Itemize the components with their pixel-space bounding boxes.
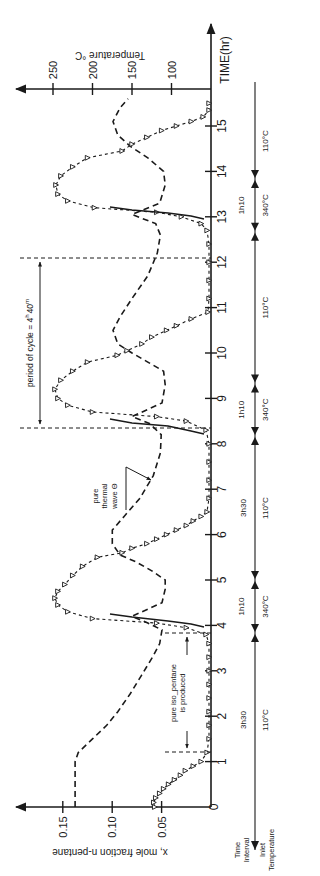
triangle-marker <box>159 128 164 133</box>
time-tick-label: 15 <box>215 119 229 133</box>
segment-arrow <box>251 571 259 579</box>
segment-arrow <box>251 223 259 231</box>
thermal-wave-annotation: pure thermal wave Θ <box>91 467 151 510</box>
triangle-marker <box>164 532 169 537</box>
triangle-marker <box>205 510 210 515</box>
triangle-marker <box>90 616 95 621</box>
time-interval-label-1: Time <box>233 842 242 858</box>
triangle-marker <box>115 353 120 358</box>
triangle-marker <box>206 310 211 315</box>
triangle-marker <box>199 759 204 764</box>
inlet-temperature-label-1: Inlet <box>258 842 267 857</box>
temperature-tick-label: 200 <box>87 61 99 79</box>
segment-arrow <box>251 427 259 435</box>
segment-arrow <box>251 624 259 632</box>
triangle-marker <box>53 596 58 601</box>
segment-arrow <box>251 180 259 188</box>
triangle-marker <box>199 514 204 519</box>
triangle-marker <box>85 155 90 160</box>
triangle-marker <box>184 419 189 424</box>
mole-fraction-axis-label: x, mole fraction n-pentane <box>52 847 168 858</box>
segment-arrow <box>251 634 259 642</box>
interval-label: 1h10 <box>237 400 246 418</box>
triangle-marker <box>174 528 179 533</box>
triangle-marker <box>66 403 71 408</box>
triangle-marker <box>154 414 159 419</box>
triangle-marker <box>145 135 150 140</box>
svg-text:is produced: is produced <box>178 674 187 713</box>
triangle-marker <box>85 360 90 365</box>
inlet-temp-label: 340°C <box>261 398 270 421</box>
period-label: period of cycle = 4h40m <box>24 299 35 387</box>
segment-arrow <box>251 384 259 392</box>
time-tick-label: 1 <box>215 758 229 765</box>
interval-label: 1h10 <box>237 196 246 214</box>
time-tick-label: 13 <box>215 210 229 224</box>
segment-arrow <box>251 374 259 382</box>
triangle-marker <box>59 378 64 383</box>
triangle-marker <box>174 323 179 328</box>
time-tick-label: 8 <box>215 440 229 447</box>
time-tick-label: 12 <box>215 255 229 269</box>
inlet-temp-label: 110°C <box>261 709 270 731</box>
inlet-temp-label: 110°C <box>261 497 270 519</box>
time-axis-label: TIME(hr) <box>218 36 232 83</box>
triangle-marker <box>63 582 68 587</box>
time-tick-label: 7 <box>215 486 229 493</box>
triangle-marker <box>184 523 189 528</box>
triangle-marker <box>152 805 157 810</box>
triangle-markers <box>53 101 212 810</box>
time-tick-label: 4 <box>215 622 229 629</box>
inlet-temperature-label-2: Temperature <box>267 829 276 871</box>
mole-tick-label: 0.15 <box>57 816 69 837</box>
temperature-tick-label: 100 <box>166 61 178 79</box>
schedule-bar: 3h30110°C1h10340°C3h30110°C1h10340°C110°… <box>237 82 270 850</box>
triangle-marker <box>130 546 135 551</box>
time-tick-label: 0 <box>207 803 221 810</box>
time-tick-label: 6 <box>215 531 229 538</box>
triangle-marker <box>205 750 210 755</box>
triangle-marker <box>164 328 169 333</box>
triangle-marker <box>54 183 59 188</box>
triangle-marker <box>183 768 188 773</box>
triangle-marker <box>56 396 61 401</box>
triangle-marker <box>140 342 145 347</box>
segment-arrow <box>251 233 259 241</box>
time-ticks: 0123456789101112131415 <box>205 119 229 810</box>
triangle-marker <box>66 199 71 204</box>
interval-label: 1h10 <box>237 597 246 615</box>
svg-text:wave Θ: wave Θ <box>110 483 119 510</box>
triangle-marker <box>178 773 183 778</box>
inlet-temp-label: 110°C <box>261 130 270 152</box>
time-tick-label: 9 <box>215 395 229 402</box>
triangle-marker <box>125 348 130 353</box>
triangle-marker <box>184 625 189 630</box>
triangle-marker <box>154 537 159 542</box>
triangle-marker <box>53 387 58 392</box>
time-tick-label: 5 <box>215 576 229 583</box>
interval-label: 3h30 <box>239 711 248 729</box>
triangle-marker <box>151 800 156 805</box>
triangle-marker <box>120 550 125 555</box>
triangle-marker <box>205 228 210 233</box>
inlet-temp-label: 110°C <box>261 297 270 319</box>
time-tick-label: 14 <box>215 164 229 178</box>
triangle-marker <box>95 555 100 560</box>
time-tick-label: 3 <box>215 667 229 674</box>
iso-pentane-annotation: pure iso_pentane is produced <box>165 633 211 752</box>
triangle-marker <box>92 205 97 210</box>
temperature-axis-label: Temperature °C <box>75 50 145 61</box>
interval-label: 3h30 <box>239 499 248 517</box>
triangle-marker <box>189 317 194 322</box>
triangle-marker <box>66 609 71 614</box>
svg-text:pure: pure <box>91 488 100 503</box>
temperature-tick-label: 150 <box>126 61 138 79</box>
segment-arrow <box>251 437 259 445</box>
segment-arrow <box>251 170 259 178</box>
triangle-marker <box>90 410 95 415</box>
triangle-marker <box>174 124 179 129</box>
triangle-marker <box>189 119 194 124</box>
time-tick-label: 11 <box>215 301 229 314</box>
triangle-marker <box>145 541 150 546</box>
triangle-marker <box>154 621 159 626</box>
